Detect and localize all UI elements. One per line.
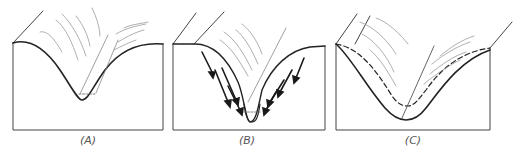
slope-hatching-c (360, 18, 474, 86)
block-diagonal-c1 (336, 14, 357, 44)
block-outline-a (13, 43, 163, 130)
panel-a (13, 8, 163, 130)
block-diagonal-c3 (490, 22, 512, 48)
slope-hatching-a (40, 8, 148, 60)
channel-bank-c (402, 46, 434, 118)
slope-hatching-b (220, 24, 262, 76)
channel-bank-a (80, 35, 108, 94)
block-diagonal-a (13, 11, 43, 43)
valley-profile-b (173, 44, 325, 122)
block-diagonal-b2 (194, 12, 224, 44)
panel-c (336, 14, 512, 130)
panel-label-b: (B) (227, 134, 267, 147)
block-outline-c (336, 44, 490, 130)
mass-wasting-arrows (202, 52, 304, 115)
panel-b (173, 12, 325, 130)
former-profile-c (336, 44, 490, 106)
valley-profile-a (13, 42, 163, 100)
channel-bank-a2 (96, 40, 118, 93)
panel-label-a: (A) (68, 134, 108, 147)
block-diagonal-b1 (173, 13, 196, 44)
block-diagonal-c2 (355, 16, 370, 44)
panel-label-c: (C) (393, 134, 433, 147)
block-outline-b (173, 44, 325, 130)
valley-profile-c (336, 44, 490, 120)
